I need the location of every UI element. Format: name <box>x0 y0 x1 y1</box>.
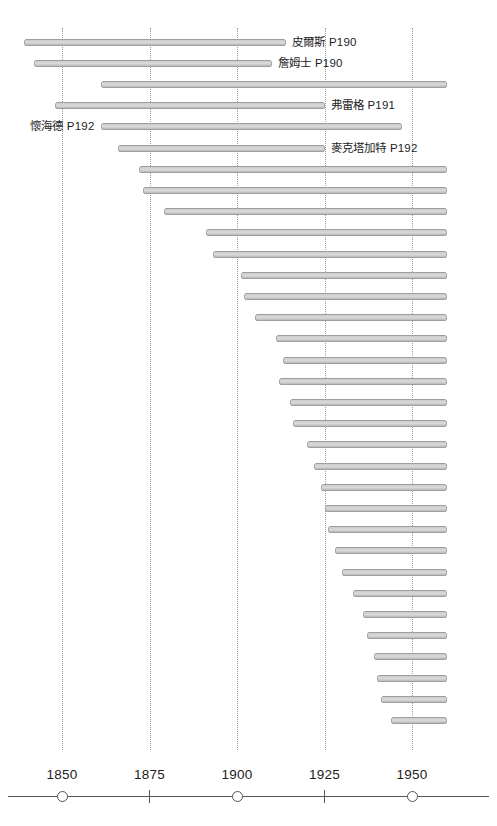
lifespan-bar[interactable] <box>328 526 447 533</box>
lifespan-bar[interactable] <box>325 505 448 512</box>
lifespan-bar[interactable] <box>276 335 448 342</box>
axis-tick-label-1925: 1925 <box>309 767 340 782</box>
lifespan-bar[interactable] <box>335 547 447 554</box>
lifespan-bar[interactable] <box>139 166 447 173</box>
lifespan-bar[interactable] <box>367 632 448 639</box>
axis-circle-1950[interactable] <box>407 791 418 802</box>
lifespan-bar[interactable] <box>244 293 447 300</box>
axis-tick-label-1850: 1850 <box>46 767 77 782</box>
axis-tick-1925[interactable] <box>324 790 325 803</box>
lifespan-bar[interactable] <box>283 357 448 364</box>
lifespan-bar[interactable] <box>374 653 448 660</box>
lifespan-bar[interactable] <box>255 314 448 321</box>
lifespan-bar[interactable] <box>314 463 447 470</box>
lifespan-bar[interactable] <box>321 484 447 491</box>
lifespan-bar[interactable] <box>391 717 447 724</box>
bar-label: 詹姆士 P190 <box>278 58 343 69</box>
lifespan-bar[interactable] <box>290 399 448 406</box>
axis-circle-1900[interactable] <box>232 791 243 802</box>
bar-label: 懷海德 P192 <box>30 121 95 132</box>
lifespan-bar[interactable] <box>24 39 287 46</box>
x-axis: 18501875190019251950 <box>0 750 497 826</box>
lifespan-bar[interactable] <box>206 229 448 236</box>
lifespan-bar[interactable] <box>279 378 447 385</box>
bar-label: 麥克塔加特 P192 <box>331 143 418 154</box>
lifespan-bar[interactable] <box>143 187 448 194</box>
lifespan-bar[interactable] <box>381 696 448 703</box>
lifespan-bar[interactable] <box>101 123 402 130</box>
lifespan-bar[interactable] <box>342 569 447 576</box>
lifespan-bar[interactable] <box>363 611 447 618</box>
lifespan-bar[interactable] <box>164 208 448 215</box>
axis-circle-1850[interactable] <box>57 791 68 802</box>
axis-tick-label-1900: 1900 <box>221 767 252 782</box>
bar-label: 皮爾斯 P190 <box>292 37 357 48</box>
lifespan-bar[interactable] <box>213 251 448 258</box>
axis-tick-label-1875: 1875 <box>134 767 165 782</box>
lifespan-bar[interactable] <box>377 675 447 682</box>
lifespan-bar[interactable] <box>241 272 448 279</box>
lifespan-bar[interactable] <box>293 420 447 427</box>
lifespan-bar[interactable] <box>34 60 272 67</box>
lifespan-bar[interactable] <box>101 81 448 88</box>
bar-label: 弗雷格 P191 <box>331 100 396 111</box>
bars-layer: 皮爾斯 P190詹姆士 P190弗雷格 P191懷海德 P192麥克塔加特 P1… <box>0 0 497 760</box>
lifespan-bar[interactable] <box>353 590 448 597</box>
lifespan-bar[interactable] <box>55 102 325 109</box>
axis-tick-1875[interactable] <box>149 790 150 803</box>
lifespan-bar[interactable] <box>118 145 325 152</box>
timeline-chart: 皮爾斯 P190詹姆士 P190弗雷格 P191懷海德 P192麥克塔加特 P1… <box>0 0 497 826</box>
axis-tick-label-1950: 1950 <box>396 767 427 782</box>
lifespan-bar[interactable] <box>307 441 447 448</box>
